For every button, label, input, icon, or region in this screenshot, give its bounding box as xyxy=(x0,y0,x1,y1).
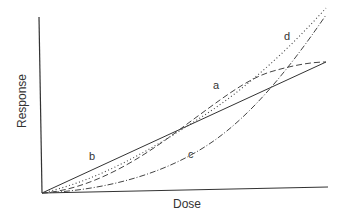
label-d: d xyxy=(284,30,290,42)
label-a: a xyxy=(213,79,220,91)
label-c: c xyxy=(188,148,194,160)
y-axis xyxy=(39,17,42,193)
label-b: b xyxy=(89,150,95,162)
dose-response-chart: a b c d Dose Response xyxy=(0,0,346,215)
curve-b xyxy=(42,62,326,193)
x-axis xyxy=(42,187,328,193)
y-axis-title: Response xyxy=(15,74,29,128)
x-axis-title: Dose xyxy=(173,197,201,211)
